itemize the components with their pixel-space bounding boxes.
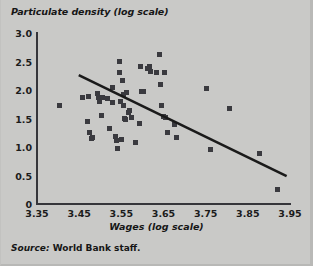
data-point (174, 135, 179, 140)
data-point (133, 140, 138, 145)
data-point (124, 90, 129, 95)
data-point (141, 89, 146, 94)
data-point (90, 135, 95, 140)
data-point (157, 52, 162, 57)
source-text: World Bank staff. (50, 243, 141, 253)
data-point (162, 70, 167, 75)
data-point (119, 137, 124, 142)
data-point (204, 86, 209, 91)
data-point (138, 64, 143, 69)
data-point (57, 103, 62, 108)
y-tick-label: 1.0 (0, 142, 32, 153)
data-point (172, 122, 177, 127)
data-point (110, 100, 115, 105)
data-point (110, 85, 115, 90)
data-point (99, 113, 104, 118)
data-point (165, 130, 170, 135)
data-point (86, 94, 91, 99)
data-point (107, 126, 112, 131)
x-axis-label: Wages (log scale) (0, 221, 313, 232)
source-label: Source: (11, 243, 50, 253)
y-tick-label: 3.0 (0, 28, 32, 39)
x-tick-label: 3.95 (265, 208, 313, 219)
data-point (123, 117, 128, 122)
scatter-plot-area (37, 33, 290, 204)
source-note: Source: World Bank staff. (11, 243, 141, 253)
data-point (148, 69, 153, 74)
data-point (127, 108, 132, 113)
data-point (120, 78, 125, 83)
data-point (158, 82, 163, 87)
data-point (117, 59, 122, 64)
data-point (154, 70, 159, 75)
data-point (163, 115, 168, 120)
data-point (105, 96, 110, 101)
data-point (137, 121, 142, 126)
data-point (159, 103, 164, 108)
data-point (227, 106, 232, 111)
y-tick-label: 0.5 (0, 170, 32, 181)
y-tick-label: 2.0 (0, 85, 32, 96)
data-point (129, 115, 134, 120)
page-title: Particulate density (log scale) (11, 6, 168, 17)
data-point (275, 187, 280, 192)
data-point (117, 70, 122, 75)
chart-figure: Particulate density (log scale) 00.51.01… (0, 0, 313, 266)
data-point (208, 147, 213, 152)
y-tick-label: 2.5 (0, 56, 32, 67)
data-point (121, 103, 126, 108)
data-point (80, 95, 85, 100)
data-point (115, 146, 120, 151)
data-point (85, 119, 90, 124)
y-tick-label: 1.5 (0, 113, 32, 124)
data-point (257, 151, 262, 156)
